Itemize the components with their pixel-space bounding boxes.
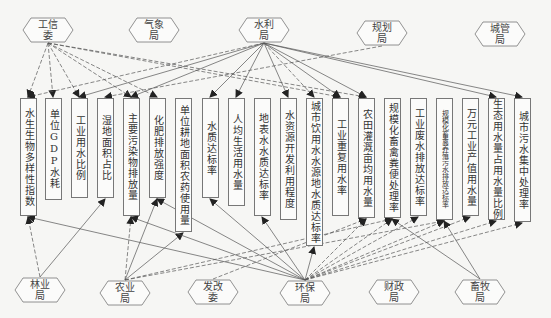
indicator-box: 城市饮用水水源地水质达标率 <box>306 98 323 246</box>
indicator-label: 城市污水集中处理率 <box>517 111 529 210</box>
agency-label: 林业局 <box>14 277 66 303</box>
agency-node-qixiang: 气象局 <box>128 17 180 43</box>
indicator-label: 单位GDP水耗 <box>48 109 60 189</box>
indicator-box: 人均生活用水量 <box>228 98 245 206</box>
agency-node-xumu: 畜牧局 <box>454 279 506 305</box>
agency-node-gongxin: 工信委 <box>22 17 74 43</box>
indicator-label: 主要污染物排放量 <box>126 113 138 201</box>
indicator-box: 地表水水质达标率 <box>254 98 271 216</box>
indicator-box: 湿地面积占比 <box>97 98 114 198</box>
agency-label: 城管局 <box>474 21 526 47</box>
indicator-label: 水资源开发利用程度 <box>283 110 295 209</box>
agency-node-caizheng: 财政局 <box>368 279 420 305</box>
agency-label: 环保局 <box>279 280 331 306</box>
agency-node-huanbao: 环保局 <box>279 280 331 306</box>
indicator-box: 化肥排放强度 <box>149 98 166 198</box>
agency-label: 气象局 <box>128 17 180 43</box>
indicator-label: 人均生活用水量 <box>231 114 243 191</box>
indicator-box: 单位耕地面积农药使用量 <box>175 98 192 232</box>
agency-label: 规划局 <box>356 20 408 46</box>
indicator-box: 水生生物多样性指数 <box>20 98 37 216</box>
indicator-label: 工业废水排放达标率 <box>413 108 425 207</box>
agency-node-guihua: 规划局 <box>356 20 408 46</box>
indicator-box: 主要污染物排放量 <box>123 98 140 216</box>
indicator-box: 规模化畜禽养殖污水排放达标率 <box>436 98 453 220</box>
indicator-box: 生态用水量占用水量比例 <box>488 98 505 220</box>
indicator-label: 湿地面积占比 <box>100 115 112 181</box>
agency-indicator-diagram: 工信委气象局水利局规划局城管局 水生生物多样性指数单位GDP水耗工业用水比例湿地… <box>0 0 551 318</box>
indicator-box: 工业废水排放达标率 <box>410 98 427 216</box>
agency-node-chengguan: 城管局 <box>474 21 526 47</box>
indicator-label: 水生生物多样性指数 <box>23 108 35 207</box>
indicator-label: 水质达标率 <box>205 121 217 176</box>
indicator-box: 工业用水比例 <box>71 98 88 198</box>
indicator-label: 生态用水量占用水量比例 <box>491 99 503 220</box>
indicator-label: 万元工业产值用水量 <box>465 108 477 207</box>
agency-label: 水利局 <box>238 17 290 43</box>
agency-node-shuili: 水利局 <box>238 17 290 43</box>
agency-node-linye: 林业局 <box>14 277 66 303</box>
indicator-box: 农田灌溉亩均用水量 <box>358 98 375 218</box>
agency-label: 发改委 <box>187 279 239 305</box>
indicator-box: 城市污水集中处理率 <box>514 98 531 222</box>
indicator-label: 规模化畜禽养殖污水排放达标率 <box>440 110 449 208</box>
indicator-box: 单位GDP水耗 <box>45 98 62 200</box>
agency-node-nongye: 农业局 <box>99 280 151 306</box>
indicator-label: 地表水水质达标率 <box>257 113 269 201</box>
indicator-label: 工业用水比例 <box>74 115 86 181</box>
indicator-label: 单位耕地面积农药使用量 <box>178 105 190 226</box>
indicator-label: 化肥排放强度 <box>152 115 164 181</box>
agency-label: 畜牧局 <box>454 279 506 305</box>
indicator-box: 工业重复用水率 <box>332 98 349 216</box>
indicator-box: 水资源开发利用程度 <box>280 98 297 220</box>
agency-label: 农业局 <box>99 280 151 306</box>
agency-label: 工信委 <box>22 17 74 43</box>
indicator-label: 工业重复用水率 <box>335 119 347 196</box>
indicator-label: 农田灌溉亩均用水量 <box>361 109 373 208</box>
indicator-label: 规模化畜禽粪便处理率 <box>387 103 399 213</box>
agency-node-fagai: 发改委 <box>187 279 239 305</box>
indicator-box: 万元工业产值用水量 <box>462 98 479 216</box>
agency-label: 财政局 <box>368 279 420 305</box>
indicator-label: 城市饮用水水源地水质达标率 <box>309 101 321 244</box>
indicator-box: 水质达标率 <box>202 98 219 198</box>
indicator-box: 规模化畜禽粪便处理率 <box>384 98 401 218</box>
